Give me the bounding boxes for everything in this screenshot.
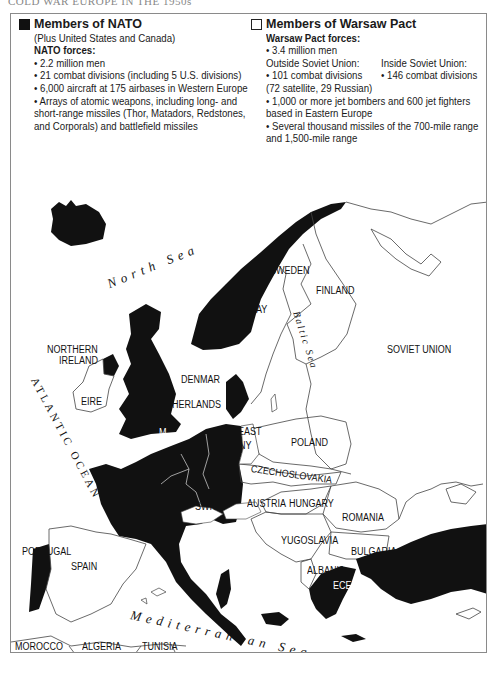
warsaw-men: • 3.4 million men (266, 44, 478, 57)
label-albania: ALBANIA (307, 565, 345, 576)
nato-subtitle: (Plus United States and Canada) (34, 32, 248, 45)
nato-item: • Arrays of atomic weapons, including lo… (34, 95, 248, 108)
label-poland: POLAND (291, 437, 328, 448)
map-frame: Members of NATO (Plus United States and … (10, 13, 487, 653)
warsaw-pact-swatch (251, 19, 262, 30)
nato-swatch (19, 19, 30, 30)
baltic-east-coast (306, 364, 351, 474)
black-sea-coast (399, 482, 483, 519)
gotland (271, 394, 277, 412)
label-spain: SPAIN (71, 561, 97, 572)
label-finland: FINLAND (316, 285, 355, 296)
label-hungary: HUNGARY (289, 498, 334, 509)
warsaw-item: • Several thousand missiles of the 700-m… (266, 120, 478, 133)
denmark (226, 374, 249, 419)
nato-forces-heading: NATO forces: (34, 44, 248, 57)
label-bulgaria: BULGARIA (351, 546, 397, 557)
crete (341, 634, 366, 642)
label-united-kingdom: M (159, 427, 167, 438)
label-switzerland: SWITZ. (195, 501, 226, 512)
warsaw-item: • 1,000 or more jet bombers and 600 jet … (266, 95, 478, 108)
label-soviet-union: SOVIET UNION (387, 344, 451, 355)
label-yugoslavia: YUGOSLAVIA (281, 535, 338, 546)
label-northern-ireland-1: NORTHERN (47, 344, 98, 355)
warsaw-forces-heading: Warsaw Pact forces: (266, 32, 478, 45)
cyprus (456, 608, 481, 619)
inside-divisions: • 146 combat divisions (381, 69, 477, 82)
label-denmark: DENMAR (181, 374, 220, 385)
outside-soviet-heading: Outside Soviet Union: (266, 57, 372, 70)
great-britain (119, 304, 181, 439)
corsica-sardinia (216, 569, 231, 609)
spain (46, 526, 146, 622)
northern-ireland (103, 354, 119, 376)
sicily (261, 612, 289, 626)
kola-coast (346, 202, 487, 224)
romania-border (323, 482, 399, 532)
inside-soviet-heading: Inside Soviet Union: (381, 57, 467, 70)
page-title: COLD WAR EUROPE IN THE 1950s (8, 0, 192, 7)
label-austria: AUSTRIA (247, 498, 286, 509)
warsaw-item: and 1,500-mile range (266, 132, 478, 145)
white-sea (371, 229, 441, 276)
label-eire: EIRE (81, 396, 102, 407)
nato-legend-title: Members of NATO (34, 18, 142, 31)
label-east-germany-1: EAST (238, 426, 262, 437)
label-northern-ireland-2: IRELAND (59, 355, 98, 366)
outside-breakdown: (72 satellite, 29 Russian) (266, 82, 478, 95)
outside-divisions: • 101 combat divisions (266, 69, 372, 82)
nato-legend: Members of NATO (Plus United States and … (19, 18, 266, 132)
label-sweden: SWEDEN (270, 265, 310, 276)
label-east-germany-2: ANY (233, 440, 252, 451)
label-portugal: PORTUGAL (22, 546, 71, 557)
warsaw-legend-title: Members of Warsaw Pact (266, 18, 416, 31)
balearics (141, 588, 166, 604)
crimea (446, 484, 476, 504)
label-morocco: MOROCCO (15, 641, 63, 652)
nato-item: and Corporals) and battlefield missiles (34, 120, 248, 133)
nato-item: • 21 combat divisions (including 5 U.S. … (34, 69, 248, 82)
iceland (51, 200, 106, 246)
turkey (356, 524, 487, 604)
nato-item: • 6,000 aircraft at 175 airbases in West… (34, 82, 248, 95)
warsaw-pact-legend: Members of Warsaw Pact Warsaw Pact force… (251, 18, 487, 145)
nato-item: • 2.2 million men (34, 57, 248, 70)
nato-item: short-range missiles (Thor, Matadors, Re… (34, 107, 248, 120)
western-europe-nato (89, 424, 246, 646)
label-greece: ECE (333, 580, 352, 591)
warsaw-item: based in Eastern Europe (266, 107, 478, 120)
norway (191, 202, 346, 350)
label-algeria: ALGERIA (82, 641, 121, 652)
label-romania: ROMANIA (342, 512, 384, 523)
label-tunisia: TUNISIA (142, 641, 178, 652)
label-netherlands: NETHERLANDS (154, 399, 221, 410)
label-norway: AY (256, 304, 267, 315)
